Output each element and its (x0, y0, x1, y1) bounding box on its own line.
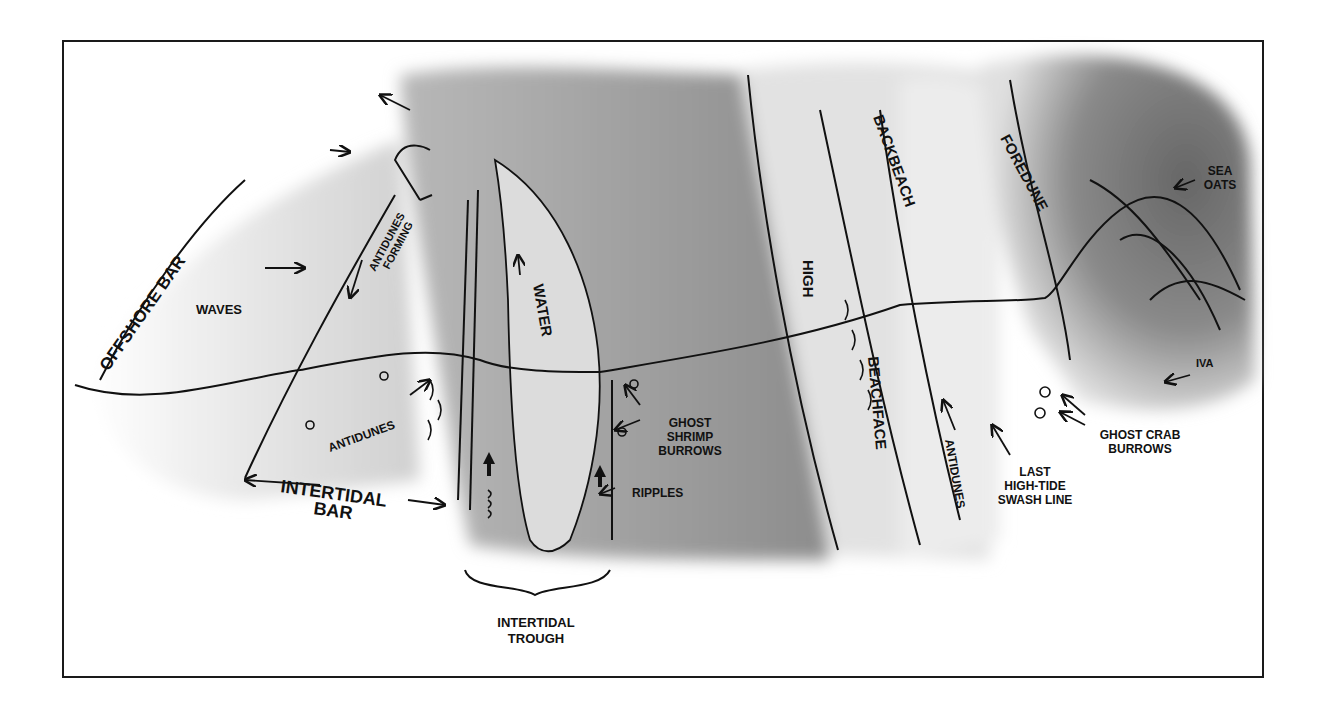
label-ghost-shrimp: GHOST (669, 416, 712, 430)
label-ripples: RIPPLES (632, 486, 683, 500)
label-sea-oats-2: OATS (1204, 178, 1236, 192)
label-last-swash: LAST (1019, 465, 1051, 479)
label-iva: IVA (1196, 357, 1214, 369)
label-intertidal-bar-2: BAR (312, 498, 353, 523)
trough-brace (465, 570, 610, 595)
label-ghost-crab-2: BURROWS (1108, 442, 1171, 456)
label-ghost-shrimp-2: SHRIMP (667, 430, 714, 444)
label-waves: WAVES (196, 302, 242, 317)
label-intertidal-trough-2: TROUGH (508, 631, 564, 646)
label-intertidal-trough: INTERTIDAL (497, 615, 574, 630)
beach-profile-diagram: OFFSHORE BAR WAVES ANTIDUNES FORMING WAT… (0, 0, 1321, 711)
label-sea-oats: SEA (1208, 164, 1233, 178)
label-last-swash-3: SWASH LINE (998, 493, 1073, 507)
label-ghost-crab: GHOST CRAB (1100, 428, 1181, 442)
label-last-swash-2: HIGH-TIDE (1004, 479, 1065, 493)
label-high: HIGH (800, 260, 817, 298)
shading-layer (90, 55, 1255, 560)
label-ghost-shrimp-3: BURROWS (658, 444, 721, 458)
